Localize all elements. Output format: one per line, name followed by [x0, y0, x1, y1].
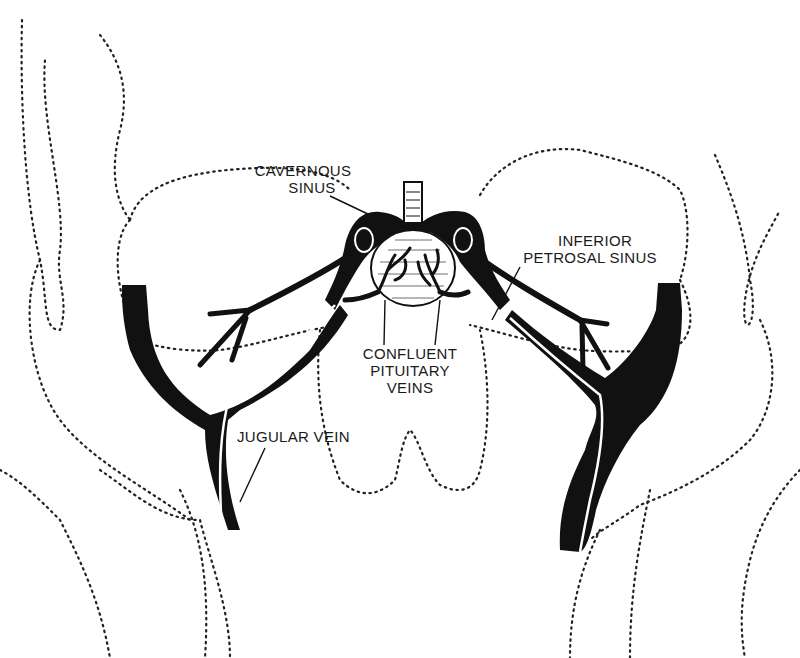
label-cavernous-sinus: CAVERNOUS SINUS [243, 162, 363, 196]
label-confluent-pituitary-veins: CONFLUENT PITUITARY VEINS [355, 345, 465, 396]
anatomy-diagram [0, 0, 800, 658]
label-inferior-petrosal-sinus-line1: INFERIOR [505, 232, 675, 249]
label-jugular-vein: JUGULAR VEIN [237, 428, 377, 445]
label-cavernous-sinus-line1: CAVERNOUS [243, 162, 363, 179]
label-inferior-petrosal-sinus: INFERIOR PETROSAL SINUS [505, 232, 675, 266]
label-inferior-petrosal-sinus-line2: PETROSAL SINUS [505, 249, 675, 266]
label-cavernous-sinus-line2: SINUS [243, 179, 363, 196]
label-jugular-vein-line1: JUGULAR VEIN [237, 428, 377, 445]
label-confluent-line3: VEINS [355, 379, 465, 396]
pituitary-stalk [404, 182, 422, 226]
label-confluent-line1: CONFLUENT [355, 345, 465, 362]
label-confluent-line2: PITUITARY [355, 362, 465, 379]
